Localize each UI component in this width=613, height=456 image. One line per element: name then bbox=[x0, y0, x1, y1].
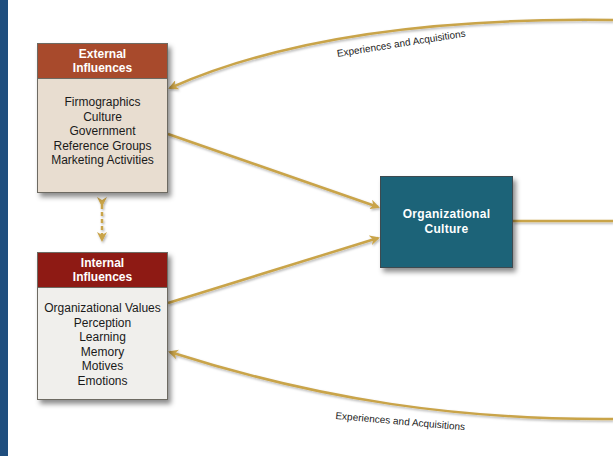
list-item: Emotions bbox=[38, 374, 167, 389]
list-item: Government bbox=[38, 124, 167, 139]
feedback-arrow-top bbox=[170, 20, 613, 88]
header-line: Influences bbox=[38, 61, 167, 75]
feedback-arrow-bottom bbox=[170, 352, 613, 419]
internal-influences-list: Organizational Values Perception Learnin… bbox=[38, 288, 167, 388]
internal-influences-header: Internal Influences bbox=[38, 253, 167, 288]
list-item: Memory bbox=[38, 345, 167, 360]
internal-influences-box: Internal Influences Organizational Value… bbox=[37, 252, 168, 400]
list-item: Firmographics bbox=[38, 95, 167, 110]
organizational-culture-box: Organizational Culture bbox=[380, 176, 513, 268]
header-line: Internal bbox=[38, 256, 167, 270]
header-line: External bbox=[38, 47, 167, 61]
list-item: Motives bbox=[38, 359, 167, 374]
list-item: Culture bbox=[38, 110, 167, 125]
list-item: Perception bbox=[38, 316, 167, 331]
arrow-internal-to-culture bbox=[168, 238, 378, 303]
list-item: Organizational Values bbox=[38, 301, 167, 316]
external-influences-box: External Influences Firmographics Cultur… bbox=[37, 43, 168, 193]
list-item: Learning bbox=[38, 330, 167, 345]
list-item: Reference Groups bbox=[38, 139, 167, 154]
arrow-external-to-culture bbox=[168, 134, 378, 207]
list-item: Marketing Activities bbox=[38, 153, 167, 168]
external-influences-header: External Influences bbox=[38, 44, 167, 79]
header-line: Influences bbox=[38, 270, 167, 284]
center-line: Organizational bbox=[381, 207, 512, 222]
external-influences-list: Firmographics Culture Government Referen… bbox=[38, 79, 167, 168]
center-line: Culture bbox=[381, 222, 512, 237]
